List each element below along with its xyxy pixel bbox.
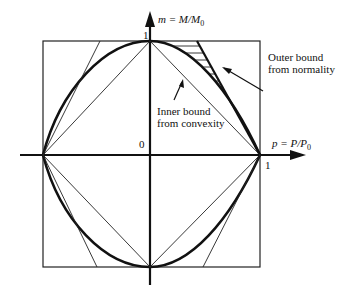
x-axis-label-sub: 0	[307, 143, 311, 152]
x-tick-1: 1	[265, 159, 271, 171]
y-axis-label-sub: 0	[200, 19, 204, 28]
y-axis-label-text: m = M/M	[158, 13, 200, 25]
y-axis-arrow-icon	[145, 11, 155, 27]
outer-arrow-icon	[222, 67, 232, 74]
x-axis-label: p = P/P0	[272, 137, 311, 154]
outer-bound-line1: Outer bound	[268, 51, 335, 63]
origin-label: 0	[139, 138, 145, 150]
y-tick-1: 1	[143, 29, 149, 41]
y-axis-label: m = M/M0	[158, 13, 204, 30]
outer-bound-label: Outer bound from normality	[268, 51, 335, 75]
inner-bound-line2: from convexity	[157, 117, 225, 129]
inner-bound-line1: Inner bound	[157, 105, 225, 117]
x-axis-label-text: p = P/P	[272, 137, 307, 149]
outer-bound-line2: from normality	[268, 63, 335, 75]
inner-bound-label: Inner bound from convexity	[157, 105, 225, 129]
